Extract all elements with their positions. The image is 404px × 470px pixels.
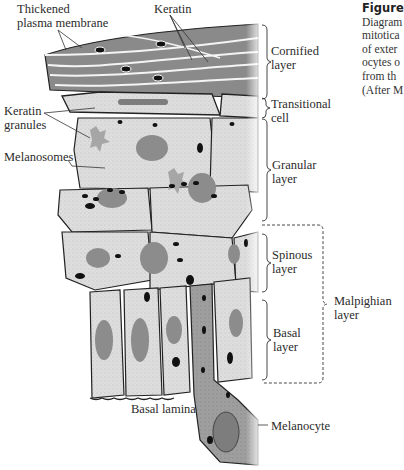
- label-basal-layer: Basal layer: [273, 326, 301, 354]
- caption-line: Diagram: [362, 16, 404, 30]
- label-melanosomes: Melanosomes: [4, 150, 73, 164]
- label-melanocyte: Melanocyte: [271, 419, 330, 433]
- label-granular-layer: Granular layer: [272, 158, 316, 186]
- granular-layer-art: [58, 118, 258, 238]
- transitional-layer-art: [62, 92, 258, 118]
- label-cornified-layer: Cornified layer: [271, 44, 319, 72]
- caption-line: from th: [362, 70, 404, 84]
- caption-line: ocytes o: [362, 56, 404, 70]
- figure-caption: Figure Diagram mitotica of exter ocytes …: [362, 2, 404, 97]
- label-transitional-cell: Transitional cell: [271, 97, 331, 125]
- label-malpighian-layer: Malpighian layer: [334, 294, 392, 322]
- caption-line: (After M: [362, 84, 404, 98]
- label-spinous-layer: Spinous layer: [272, 248, 312, 276]
- caption-heading: Figure: [362, 2, 404, 16]
- label-keratin: Keratin: [154, 2, 191, 16]
- caption-line: mitotica: [362, 29, 404, 43]
- basal-layer-art: [90, 278, 258, 465]
- cornified-layer-art: [45, 24, 258, 98]
- caption-line: of exter: [362, 43, 404, 57]
- label-keratin-granules: Keratin granules: [4, 104, 46, 132]
- label-basal-lamina: Basal lamina: [131, 402, 196, 416]
- label-thickened-plasma-membrane: Thickened plasma membrane: [17, 2, 108, 30]
